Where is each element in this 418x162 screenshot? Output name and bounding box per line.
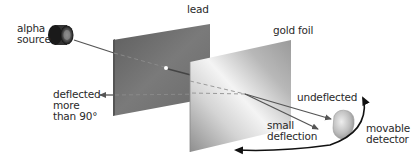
deflected-more-than-90-label: deflected more than 90° [53, 89, 100, 122]
gold-foil-label: gold foil [273, 25, 313, 36]
alpha-source-icon [48, 25, 74, 45]
alpha-source-label: alpha source [17, 23, 51, 45]
small-deflection-label: small deflection [267, 120, 317, 142]
lead-label: lead [187, 4, 209, 15]
movable-detector-label: movable detector [366, 123, 410, 145]
undeflected-label: undeflected [297, 92, 357, 103]
incident-beam [74, 40, 114, 53]
gold-foil-experiment-diagram: alpha source lead gold foil deflected mo… [0, 0, 418, 162]
